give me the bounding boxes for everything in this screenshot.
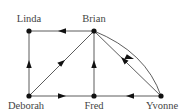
label-yvonne: Yvonne bbox=[146, 100, 179, 111]
node-deborah bbox=[26, 93, 31, 98]
arrow-right-icon bbox=[58, 93, 66, 98]
arrow-left-icon bbox=[126, 93, 134, 98]
edges bbox=[26, 28, 161, 98]
directed-graph: Linda Brian Deborah Fred Yvonne bbox=[0, 0, 184, 112]
arrow-up-icon bbox=[26, 60, 31, 68]
arrow-up-right-icon bbox=[57, 60, 65, 67]
label-deborah: Deborah bbox=[8, 100, 45, 111]
node-linda bbox=[26, 28, 31, 33]
node-brian bbox=[91, 28, 96, 33]
label-fred: Fred bbox=[84, 100, 104, 111]
arrow-down-right-icon bbox=[124, 54, 134, 59]
label-linda: Linda bbox=[17, 13, 42, 24]
node-fred bbox=[91, 93, 96, 98]
arrow-left-icon bbox=[58, 28, 66, 33]
edge-yvonne-to-brian bbox=[94, 31, 161, 96]
arrow-up-icon bbox=[91, 60, 96, 68]
node-yvonne bbox=[158, 93, 163, 98]
label-brian: Brian bbox=[82, 13, 106, 24]
